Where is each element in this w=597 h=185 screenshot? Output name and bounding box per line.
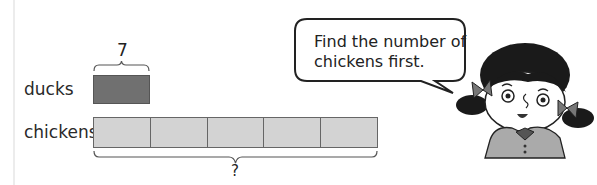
page-margin-line [13, 0, 15, 185]
ducks-count-label: 7 [117, 40, 128, 60]
total-unknown-label: ? [231, 162, 239, 180]
chickens-segment [151, 118, 208, 147]
chickens-label: chickens [24, 122, 98, 142]
ducks-bar [93, 75, 150, 104]
chickens-segment [321, 118, 377, 147]
chickens-segment [264, 118, 321, 147]
chickens-segment [208, 118, 265, 147]
chickens-segment [94, 118, 151, 147]
chickens-bar [93, 117, 378, 148]
ducks-label: ducks [24, 79, 74, 99]
girl-character-icon [450, 30, 597, 160]
speech-bubble-text: Find the number of chickens first. [314, 32, 466, 72]
top-brace-icon [93, 60, 150, 72]
